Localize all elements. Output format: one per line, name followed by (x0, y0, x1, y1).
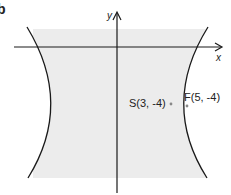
focus-point-f (186, 105, 189, 108)
y-axis-label: y (106, 10, 113, 21)
part-label: b (0, 1, 6, 17)
hyperbola-diagram: b y x S(3, -4) F(5, -4) (0, 0, 231, 195)
shaded-region (33, 29, 207, 181)
vertex-point-s (170, 103, 173, 106)
x-axis-label: x (215, 52, 222, 63)
vertex-label: S(3, -4) (129, 97, 166, 109)
focus-label: F(5, -4) (184, 91, 220, 103)
